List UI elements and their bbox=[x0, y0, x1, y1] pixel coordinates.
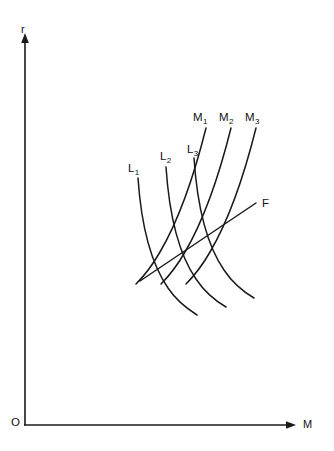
y-axis-label: r bbox=[21, 24, 25, 35]
curve-label-m1: M1 bbox=[193, 112, 207, 124]
curve-label-l3-subscript: 3 bbox=[194, 149, 199, 158]
curve-l3 bbox=[194, 158, 254, 298]
economics-diagram: r M O L1 L2 L3 M1 M2 M3 F bbox=[0, 0, 334, 451]
curve-label-l3: L3 bbox=[187, 144, 198, 156]
curve-label-l1-subscript: 1 bbox=[135, 168, 140, 177]
curve-label-m3-subscript: 3 bbox=[255, 117, 260, 126]
curve-label-l2-subscript: 2 bbox=[167, 156, 172, 165]
liquidity-curves-group bbox=[138, 158, 254, 315]
curve-label-l1: L1 bbox=[128, 163, 139, 175]
curve-label-f: F bbox=[262, 198, 269, 210]
curve-label-m2-subscript: 2 bbox=[229, 117, 234, 126]
x-axis-label: M bbox=[303, 419, 312, 430]
origin-label: O bbox=[11, 417, 20, 429]
curve-l2 bbox=[166, 167, 226, 307]
curve-label-m3: M3 bbox=[245, 112, 259, 124]
diagram-canvas bbox=[0, 0, 334, 451]
curve-label-m2: M2 bbox=[219, 112, 233, 124]
curve-label-l2: L2 bbox=[160, 151, 171, 163]
curve-label-m1-subscript: 1 bbox=[203, 117, 208, 126]
x-axis-arrow-icon bbox=[286, 421, 296, 429]
axes-group bbox=[21, 33, 296, 429]
